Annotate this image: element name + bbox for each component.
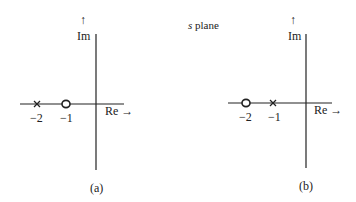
real-text: Re bbox=[314, 103, 327, 117]
plane-title: s plane bbox=[188, 20, 219, 31]
real-label-b: Re → bbox=[314, 104, 342, 116]
pole-zero-plots bbox=[0, 0, 356, 202]
real-text: Re bbox=[105, 104, 118, 118]
pole-label-a: −2 bbox=[30, 112, 43, 124]
zero-label-b: −2 bbox=[239, 111, 252, 123]
caption-b: (b) bbox=[299, 180, 313, 192]
title-variable: s bbox=[188, 19, 192, 31]
imag-label-b: Im bbox=[288, 30, 301, 42]
title-word: plane bbox=[195, 19, 219, 31]
imag-arrow-b: ↑ bbox=[290, 14, 296, 26]
imag-label-a: Im bbox=[77, 30, 90, 42]
pole-label-b: −1 bbox=[268, 111, 281, 123]
panel-a-axes bbox=[20, 34, 124, 170]
zero-marker bbox=[62, 100, 70, 107]
zero-marker bbox=[242, 99, 250, 106]
zero-label-a: −1 bbox=[60, 112, 73, 124]
real-label-a: Re → bbox=[105, 105, 133, 117]
real-arrow: → bbox=[330, 103, 342, 117]
imag-arrow-a: ↑ bbox=[80, 14, 86, 26]
real-arrow: → bbox=[121, 104, 133, 118]
panel-b-axes bbox=[228, 34, 332, 168]
caption-a: (a) bbox=[90, 182, 103, 194]
